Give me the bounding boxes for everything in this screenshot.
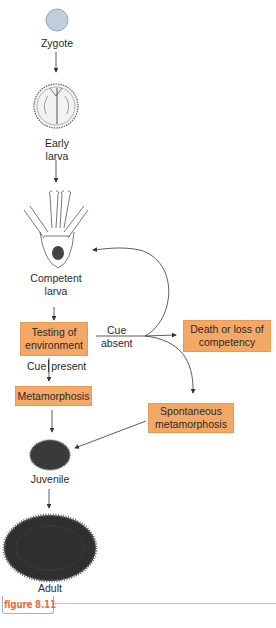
testing-environment-box: Testing of environment: [20, 322, 88, 356]
diagram-arrows: [0, 0, 276, 628]
zygote-icon: [46, 9, 68, 31]
adult-label: Adult: [20, 582, 80, 595]
cue-absent-label: Cue absent: [97, 324, 137, 350]
early-larva-label: Early larva: [27, 137, 87, 163]
death-loss-box: Death or loss of competency: [183, 320, 271, 352]
juvenile-label: Juvenile: [20, 473, 80, 486]
early-larva-icon: [34, 84, 78, 128]
juvenile-urchin-icon: [30, 440, 70, 470]
adult-urchin-icon: [4, 515, 96, 581]
zygote-label: Zygote: [27, 37, 87, 50]
figure-divider: [52, 603, 276, 604]
cue-present-label: Cuepresent: [27, 360, 97, 373]
spontaneous-metamorphosis-box: Spontaneous metamorphosis: [148, 403, 234, 433]
figure-number: figure 8.11: [4, 598, 56, 611]
larva-rudiment-icon: [52, 246, 64, 260]
competent-larva-label: Competent larva: [19, 272, 93, 298]
metamorphosis-box: Metamorphosis: [15, 386, 92, 406]
